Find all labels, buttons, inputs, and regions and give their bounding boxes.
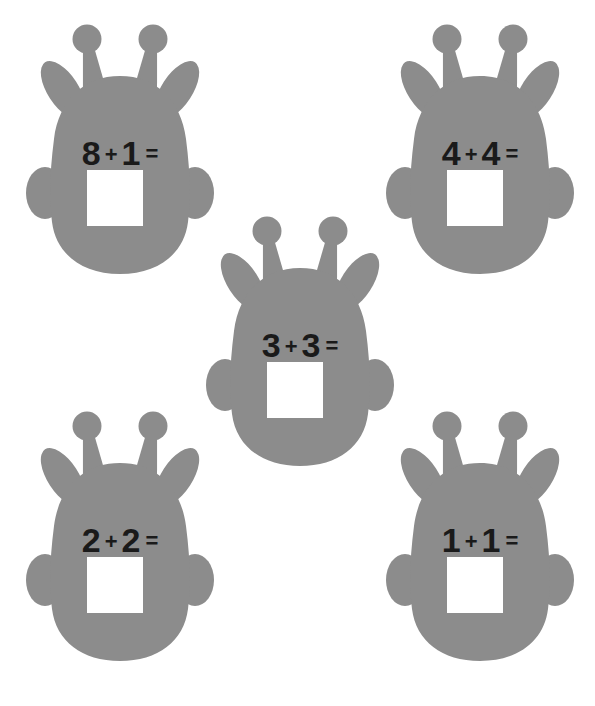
left-operand: 8	[82, 134, 101, 172]
plus-operator: +	[461, 529, 482, 554]
answer-box[interactable]	[87, 170, 143, 226]
right-operand: 1	[482, 521, 501, 559]
answer-box[interactable]	[447, 557, 503, 613]
answer-box[interactable]	[267, 362, 323, 418]
equals-sign: =	[140, 141, 158, 166]
giraffe-card: 3+3=	[205, 210, 395, 475]
equals-sign: =	[500, 528, 518, 553]
giraffe-card: 2+2=	[25, 405, 215, 670]
worksheet-canvas: 8+1= 4+4=	[0, 0, 595, 706]
giraffe-card: 1+1=	[385, 405, 575, 670]
left-operand: 4	[442, 134, 461, 172]
answer-box[interactable]	[87, 557, 143, 613]
left-operand: 3	[262, 326, 281, 364]
right-operand: 4	[482, 134, 501, 172]
equation-text: 2+2=	[25, 523, 215, 557]
right-operand: 1	[122, 134, 141, 172]
giraffe-card: 8+1=	[25, 18, 215, 283]
right-operand: 2	[122, 521, 141, 559]
right-operand: 3	[302, 326, 321, 364]
equals-sign: =	[140, 528, 158, 553]
answer-box[interactable]	[447, 170, 503, 226]
plus-operator: +	[101, 529, 122, 554]
giraffe-card: 4+4=	[385, 18, 575, 283]
plus-operator: +	[101, 142, 122, 167]
left-operand: 1	[442, 521, 461, 559]
plus-operator: +	[461, 142, 482, 167]
equation-text: 1+1=	[385, 523, 575, 557]
equation-text: 3+3=	[205, 328, 395, 362]
equation-text: 8+1=	[25, 136, 215, 170]
equals-sign: =	[320, 333, 338, 358]
plus-operator: +	[281, 334, 302, 359]
equation-text: 4+4=	[385, 136, 575, 170]
left-operand: 2	[82, 521, 101, 559]
equals-sign: =	[500, 141, 518, 166]
